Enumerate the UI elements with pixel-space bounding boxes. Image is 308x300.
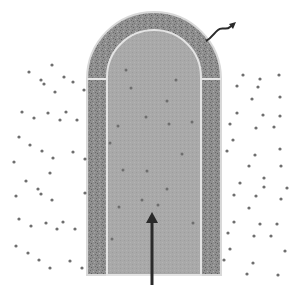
particle xyxy=(68,259,71,262)
particle xyxy=(118,206,121,209)
particle xyxy=(29,224,32,227)
particle xyxy=(262,185,265,188)
particle xyxy=(24,179,27,182)
particle xyxy=(278,114,281,117)
particle xyxy=(46,111,49,114)
particle xyxy=(168,123,171,126)
particle xyxy=(275,222,278,225)
particle xyxy=(28,143,31,146)
particle xyxy=(166,188,169,191)
particle xyxy=(39,78,42,81)
particle xyxy=(279,164,282,167)
particle xyxy=(247,164,250,167)
particle xyxy=(276,273,279,276)
particle xyxy=(247,206,250,209)
particle xyxy=(50,198,53,201)
particle xyxy=(117,125,120,128)
particle xyxy=(235,111,238,114)
particle xyxy=(62,75,65,78)
tube-diagram xyxy=(0,0,308,300)
particle xyxy=(258,222,261,225)
particle xyxy=(71,80,74,83)
particle xyxy=(83,191,86,194)
particle xyxy=(141,199,144,202)
particle xyxy=(130,87,133,90)
particle xyxy=(17,135,20,138)
particle xyxy=(222,258,225,261)
particle xyxy=(55,227,58,230)
particle xyxy=(44,221,47,224)
particle xyxy=(254,194,257,197)
particle xyxy=(14,244,17,247)
particle xyxy=(58,118,61,121)
particle xyxy=(80,266,83,269)
particle xyxy=(251,261,254,264)
particle xyxy=(157,204,160,207)
particle xyxy=(238,181,241,184)
particle xyxy=(40,149,43,152)
particle xyxy=(166,100,169,103)
particle xyxy=(145,116,148,119)
particle xyxy=(285,186,288,189)
particle xyxy=(48,266,51,269)
particle xyxy=(146,170,149,173)
particle xyxy=(253,153,256,156)
diagram-canvas xyxy=(0,0,308,300)
particle xyxy=(71,150,74,153)
particle xyxy=(175,79,178,82)
particle xyxy=(256,85,259,88)
particle xyxy=(277,73,280,76)
particle xyxy=(258,77,261,80)
inner-lumen xyxy=(107,30,201,275)
particle xyxy=(36,187,39,190)
particle xyxy=(109,142,112,145)
particle xyxy=(279,197,282,200)
particle xyxy=(82,88,85,91)
particle xyxy=(262,176,265,179)
particle xyxy=(228,247,231,250)
particle xyxy=(61,220,64,223)
particle xyxy=(278,95,281,98)
particle xyxy=(12,160,15,163)
particle xyxy=(245,272,248,275)
particle xyxy=(261,113,264,116)
particle xyxy=(254,126,257,129)
particle xyxy=(14,194,17,197)
particle xyxy=(73,227,76,230)
particle xyxy=(192,222,195,225)
particle xyxy=(278,147,281,150)
particle xyxy=(53,90,56,93)
particle xyxy=(235,84,238,87)
particle xyxy=(37,258,40,261)
particle xyxy=(228,122,231,125)
particle xyxy=(26,251,29,254)
particle xyxy=(50,63,53,66)
particle xyxy=(250,97,253,100)
particle xyxy=(226,231,229,234)
particle xyxy=(32,116,35,119)
particle xyxy=(20,110,23,113)
particle xyxy=(232,220,235,223)
particle xyxy=(283,249,286,252)
particle xyxy=(225,149,228,152)
particle xyxy=(191,121,194,124)
particle xyxy=(39,192,42,195)
particle xyxy=(269,234,272,237)
particle xyxy=(64,110,67,113)
particle xyxy=(27,70,30,73)
outflow-wavy-arrow xyxy=(206,22,236,41)
particle xyxy=(17,217,20,220)
particle xyxy=(51,156,54,159)
particle xyxy=(125,69,128,72)
particle xyxy=(252,234,255,237)
particle xyxy=(231,138,234,141)
particle xyxy=(83,157,86,160)
particle xyxy=(111,238,114,241)
particle xyxy=(232,193,235,196)
particle xyxy=(181,153,184,156)
particle xyxy=(75,118,78,121)
particle xyxy=(42,82,45,85)
particle xyxy=(122,169,125,172)
particle xyxy=(241,73,244,76)
particle xyxy=(272,125,275,128)
